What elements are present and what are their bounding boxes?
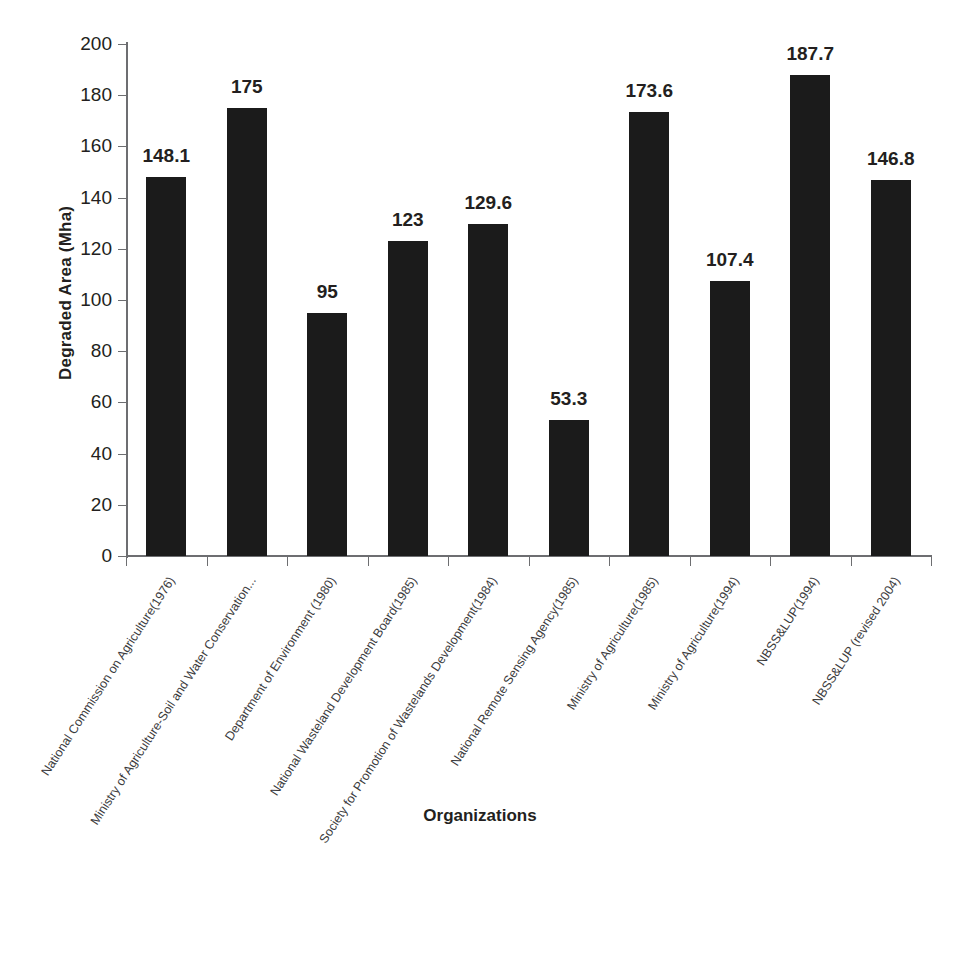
bar[interactable] [629, 112, 669, 556]
bar[interactable] [710, 281, 750, 556]
bar[interactable] [146, 177, 186, 556]
y-axis-tick-label-text: 60 [8, 391, 112, 413]
y-axis-tick-label-text: 200 [8, 33, 112, 55]
y-axis-tick-label-text: 20 [8, 494, 112, 516]
x-axis-tick [207, 557, 208, 566]
bar-value-label: 175 [192, 76, 302, 98]
bar[interactable] [468, 224, 508, 556]
bar-value-label: 95 [272, 281, 382, 303]
bar-chart: Degraded Area (Mha) 02040608010012014016… [0, 0, 960, 958]
y-axis-tick-label-text: 180 [8, 84, 112, 106]
bar-value-label: 107.4 [675, 249, 785, 271]
y-axis-tick-label: 20 [0, 494, 112, 514]
y-axis-tick [118, 454, 126, 455]
bar[interactable] [307, 313, 347, 556]
x-axis-tick [851, 557, 852, 566]
y-axis-tick [118, 556, 126, 557]
bar-value-label: 53.3 [514, 388, 624, 410]
bar[interactable] [388, 241, 428, 556]
y-axis-tick-label: 140 [0, 187, 112, 207]
y-axis-tick [118, 505, 126, 506]
y-axis-tick-label: 120 [0, 238, 112, 258]
y-axis-tick [118, 249, 126, 250]
y-axis-tick-label: 200 [0, 33, 112, 53]
x-axis-tick [368, 557, 369, 566]
x-axis-tick [609, 557, 610, 566]
y-axis-tick-label-text: 0 [8, 545, 112, 567]
x-axis-tick [529, 557, 530, 566]
y-axis-tick [118, 198, 126, 199]
x-axis-tick [287, 557, 288, 566]
y-axis-tick-label-text: 120 [8, 238, 112, 260]
y-axis-tick-label: 40 [0, 443, 112, 463]
y-axis-line [126, 42, 128, 558]
y-axis-tick-label: 60 [0, 391, 112, 411]
x-axis-title: Organizations [0, 806, 960, 826]
bar[interactable] [871, 180, 911, 556]
bar-value-label: 129.6 [433, 192, 543, 214]
y-axis-tick-label: 100 [0, 289, 112, 309]
y-axis-tick-label-text: 160 [8, 135, 112, 157]
y-axis-tick [118, 95, 126, 96]
y-axis-tick-label-text: 100 [8, 289, 112, 311]
x-axis-tick [770, 557, 771, 566]
bar[interactable] [790, 75, 830, 556]
y-axis-tick-label-text: 140 [8, 187, 112, 209]
y-axis-tick-label: 180 [0, 84, 112, 104]
bar-value-label: 173.6 [594, 80, 704, 102]
bar-value-label: 146.8 [836, 148, 946, 170]
y-axis-tick [118, 300, 126, 301]
y-axis-tick [118, 402, 126, 403]
x-axis-tick [690, 557, 691, 566]
y-axis-tick [118, 44, 126, 45]
bar-value-label: 187.7 [755, 43, 865, 65]
bar-value-label: 148.1 [111, 145, 221, 167]
y-axis-tick [118, 351, 126, 352]
x-axis-tick [126, 557, 127, 566]
y-axis-tick-label: 160 [0, 135, 112, 155]
y-axis-tick-label-text: 40 [8, 443, 112, 465]
x-axis-tick [448, 557, 449, 566]
y-axis-tick-label: 0 [0, 545, 112, 565]
x-axis-tick [931, 557, 932, 566]
bar[interactable] [227, 108, 267, 556]
bar[interactable] [549, 420, 589, 556]
y-axis-tick-label: 80 [0, 340, 112, 360]
y-axis-tick-label-text: 80 [8, 340, 112, 362]
